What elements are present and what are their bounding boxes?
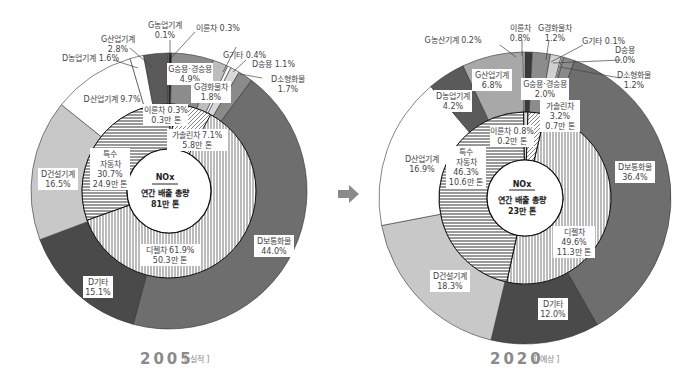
label-d-passenger: D승용 1.1% bbox=[252, 60, 295, 69]
label-d-construction-pct: 18.3% bbox=[437, 282, 463, 291]
label-d-small-truck-pct: 1.7% bbox=[278, 85, 299, 94]
label-g-agri-machine-pct: 0.1% bbox=[155, 31, 176, 40]
label-special-vehicle-2: 자동차 bbox=[100, 160, 122, 169]
label-g-industrial-machine-pct: 2.8% bbox=[108, 45, 129, 54]
label-diesel: 디젤차 bbox=[564, 227, 586, 237]
label-motorcycle-outer: 이륜차 0.3% bbox=[196, 23, 240, 33]
center-pollutant: NOx bbox=[156, 173, 175, 182]
label-d-agri-machine: D농업기계 bbox=[436, 91, 470, 101]
label-g-passenger: G승용·경승용 bbox=[168, 64, 212, 74]
label-d-etc: D기타 bbox=[543, 300, 564, 309]
label-motorcycle-inner: 이륜차 0.3% bbox=[144, 105, 188, 115]
label-special-vehicle: 특수 bbox=[459, 148, 473, 157]
center-pollutant: NOx bbox=[513, 180, 532, 189]
arrow-right-icon bbox=[338, 185, 359, 203]
label-motorcycle-inner: 이륜차 0.8% bbox=[490, 126, 534, 136]
label-motorcycle-outer-pct: 0.8% bbox=[510, 34, 531, 43]
label-gasoline-amount: 5.8만 톤 bbox=[182, 141, 211, 150]
label-g-passenger-pct: 2.0% bbox=[535, 90, 556, 99]
label-g-industrial-machine: G산업기계 bbox=[475, 70, 509, 80]
label-special-vehicle: 특수 bbox=[103, 150, 117, 159]
label-d-small-truck-pct: 1.2% bbox=[624, 81, 645, 90]
label-gasoline-amount: 0.7만 톤 bbox=[545, 122, 574, 131]
label-d-truck: D보통화물 bbox=[257, 237, 291, 246]
label-g-light-truck-pct: 1.8% bbox=[201, 93, 222, 102]
label-g-agri-machine: G농업기계 bbox=[148, 20, 182, 30]
label-motorcycle-inner-amount: 0.2만 톤 bbox=[497, 137, 526, 146]
label-special-vehicle-amount: 24.9만 톤 bbox=[93, 180, 127, 189]
label-g-industrial-machine: G산업기계 bbox=[101, 34, 135, 44]
label-d-construction: D건설기계 bbox=[41, 169, 75, 179]
center-total-label: 연간 배출 총량 bbox=[141, 188, 190, 198]
label-gasoline: 가솔린차 7.1% bbox=[172, 130, 223, 140]
year-tag: [ 예상 ] bbox=[534, 354, 559, 364]
label-d-agri-machine-pct: 4.2% bbox=[443, 102, 464, 111]
label-d-industrial-machine: D산업기계 9.7% bbox=[83, 94, 140, 104]
label-d-agri-machine: D농업기계 1.6% bbox=[62, 53, 119, 63]
label-d-etc-pct: 15.1% bbox=[85, 288, 111, 297]
label-g-etc: G기타 0.4% bbox=[223, 51, 266, 60]
label-d-etc-pct: 12.0% bbox=[540, 310, 566, 319]
chart-canvas: G농업기계 0.1% 이륜차 0.3% G산업기계 2.8% D농업기계 1.6… bbox=[0, 0, 692, 379]
label-d-passenger-pct: 0.0% bbox=[615, 56, 636, 65]
label-special-vehicle-2: 자동차 bbox=[456, 158, 478, 167]
label-g-light-truck: G경화물차 bbox=[194, 82, 229, 92]
label-d-construction: D건설기계 bbox=[433, 271, 467, 281]
label-d-industrial-machine: D산업기계 bbox=[405, 154, 439, 164]
label-diesel-pct: 49.6% bbox=[561, 238, 587, 247]
label-g-industrial-machine-pct: 6.8% bbox=[482, 81, 503, 90]
label-d-construction-pct: 16.5% bbox=[45, 180, 71, 189]
label-d-truck: D보통화물 bbox=[618, 163, 652, 172]
center-total-label: 연간 배출 총량 bbox=[498, 195, 547, 205]
label-d-passenger: D승용 bbox=[615, 46, 635, 55]
label-diesel-amount: 11.3만 톤 bbox=[557, 248, 591, 257]
label-d-industrial-machine-pct: 16.9% bbox=[409, 165, 435, 174]
label-d-truck-pct: 36.4% bbox=[622, 173, 648, 182]
label-d-etc: D기타 bbox=[88, 278, 109, 287]
year-tag: [ 실적 ] bbox=[184, 354, 209, 364]
label-g-passenger: G승용·경승용 bbox=[523, 79, 567, 89]
center-total-value: 81만 톤 bbox=[151, 199, 180, 209]
label-d-truck-pct: 44.0% bbox=[261, 247, 287, 256]
label-special-vehicle-pct: 30.7% bbox=[97, 170, 123, 179]
label-diesel: 디젤차 61.9% bbox=[146, 245, 195, 255]
label-special-vehicle-pct: 46.3% bbox=[453, 168, 479, 177]
label-g-light-truck-pct: 1.2% bbox=[545, 34, 566, 43]
label-d-small-truck: D소형화물 bbox=[617, 71, 651, 80]
label-g-agri-machine: G농산기계 0.2% bbox=[424, 35, 481, 45]
label-g-light-truck: G경화물차 bbox=[538, 23, 573, 33]
label-diesel-amount: 50.3만 톤 bbox=[153, 256, 187, 265]
label-special-vehicle-amount: 10.6만 톤 bbox=[449, 178, 483, 187]
label-gasoline-pct: 3.2% bbox=[550, 112, 571, 121]
label-gasoline: 가솔린차 bbox=[546, 101, 575, 111]
label-g-etc: G기타 0.1% bbox=[582, 37, 625, 46]
label-motorcycle-inner-amount: 0.3만 톤 bbox=[151, 116, 180, 125]
label-d-small-truck: D소형화물 bbox=[271, 75, 305, 84]
center-total-value: 23만 톤 bbox=[508, 206, 537, 216]
label-motorcycle-outer: 이륜차 bbox=[510, 23, 532, 33]
